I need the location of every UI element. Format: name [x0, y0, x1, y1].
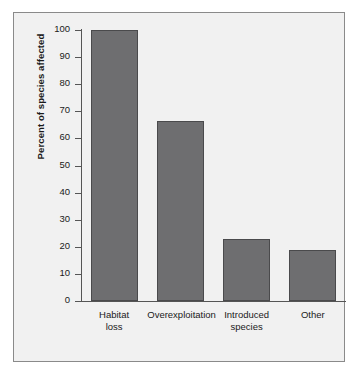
bar — [157, 121, 204, 301]
y-axis-tick-label: 90 — [59, 50, 70, 61]
x-axis-category-label: Other — [280, 309, 346, 321]
y-axis-tick-label: 100 — [54, 23, 70, 34]
y-axis-tick-label: 60 — [59, 131, 70, 142]
plot-area — [81, 30, 346, 301]
x-axis-category-label: Overexploitation — [147, 309, 213, 321]
y-axis-title: Percent of species affected — [35, 7, 46, 187]
y-axis-tick-label: 50 — [59, 159, 70, 170]
figure-canvas: Percent of species affected 100908070605… — [0, 0, 358, 379]
x-axis-line — [81, 301, 346, 302]
y-axis-tick-label: 20 — [59, 240, 70, 251]
x-axis-category-label: Introducedspecies — [214, 309, 280, 333]
y-axis-tick-label: 30 — [59, 213, 70, 224]
y-axis-tick-label: 80 — [59, 77, 70, 88]
y-axis-tick-label: 40 — [59, 186, 70, 197]
x-axis-category-label-line: Habitat — [81, 309, 147, 321]
x-axis-category-label-line: Introduced — [214, 309, 280, 321]
x-axis-category-label-line: Overexploitation — [147, 309, 213, 321]
x-axis-category-label-line: species — [214, 321, 280, 333]
bar — [91, 30, 138, 301]
bar — [223, 239, 270, 301]
y-axis-tick-label: 70 — [59, 104, 70, 115]
chart-frame: Percent of species affected 100908070605… — [13, 12, 345, 362]
bar — [289, 250, 336, 301]
y-axis-tick-mark — [75, 301, 81, 302]
x-axis-category-label-line: loss — [81, 321, 147, 333]
y-axis-tick-label: 0 — [65, 294, 70, 305]
x-axis-category-label-line: Other — [280, 309, 346, 321]
x-axis-category-label: Habitatloss — [81, 309, 147, 333]
y-axis-tick-label: 10 — [59, 267, 70, 278]
